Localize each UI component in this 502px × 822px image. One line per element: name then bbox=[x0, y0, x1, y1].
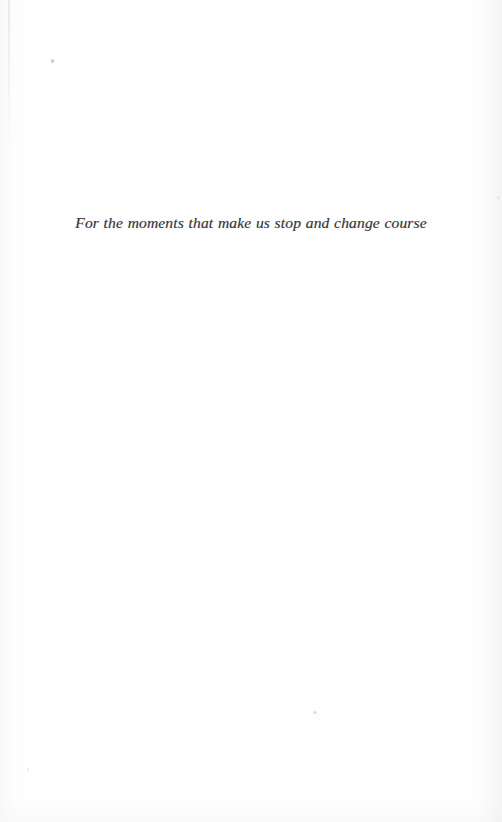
dedication-line: For the moments that make us stop and ch… bbox=[75, 213, 427, 233]
dedication-block: For the moments that make us stop and ch… bbox=[0, 0, 502, 822]
scanned-page: For the moments that make us stop and ch… bbox=[0, 0, 502, 822]
